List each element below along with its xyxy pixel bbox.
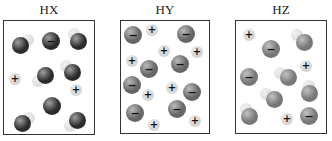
anion-ion: − xyxy=(262,40,280,58)
anion-atom-bonded xyxy=(296,34,313,51)
anion-ion: − xyxy=(171,55,189,73)
cation-ion: + xyxy=(126,55,138,67)
anion-ion: − xyxy=(168,100,186,118)
minus-sign-icon: − xyxy=(172,104,181,115)
anion-ion: − xyxy=(183,83,201,101)
cation-ion: + xyxy=(191,46,203,58)
cation-ion: + xyxy=(146,24,158,36)
anion-atom-bonded xyxy=(14,115,31,132)
anion-ion: − xyxy=(177,25,195,43)
plus-sign-icon: + xyxy=(72,85,80,95)
panel-label-hz: HZ xyxy=(235,2,327,18)
anion-atom-bonded xyxy=(12,37,29,54)
minus-sign-icon: − xyxy=(244,72,253,83)
plus-sign-icon: + xyxy=(168,83,176,93)
minus-sign-icon: − xyxy=(175,59,184,70)
anion-ion xyxy=(43,97,61,115)
anion-ion: − xyxy=(140,60,158,78)
plus-sign-icon: + xyxy=(283,114,291,124)
plus-sign-icon: + xyxy=(160,46,168,56)
anion-atom-bonded xyxy=(69,112,86,129)
anion-atom-bonded xyxy=(37,67,54,84)
cation-ion: + xyxy=(148,119,160,131)
minus-sign-icon: − xyxy=(130,108,139,119)
plus-sign-icon: + xyxy=(144,90,152,100)
plus-sign-icon: + xyxy=(128,56,136,66)
minus-sign-icon: − xyxy=(144,64,153,75)
plus-sign-icon: + xyxy=(11,74,19,84)
anion-ion: − xyxy=(240,68,258,86)
cation-ion: + xyxy=(300,60,312,72)
minus-sign-icon: − xyxy=(46,36,55,47)
cation-ion: + xyxy=(9,73,21,85)
anion-ion: − xyxy=(42,32,60,50)
plus-sign-icon: + xyxy=(191,116,199,126)
minus-sign-icon: − xyxy=(128,30,137,41)
anion-atom-bonded xyxy=(301,85,318,102)
minus-sign-icon: − xyxy=(181,29,190,40)
panel-label-hx: HX xyxy=(3,2,95,18)
cation-ion: + xyxy=(189,115,201,127)
minus-sign-icon: − xyxy=(187,87,196,98)
plus-sign-icon: + xyxy=(302,61,310,71)
minus-sign-icon: − xyxy=(304,111,313,122)
plus-sign-icon: + xyxy=(148,25,156,35)
anion-atom-bonded xyxy=(241,108,258,125)
anion-ion: − xyxy=(124,26,142,44)
anion-atom-bonded xyxy=(64,64,81,81)
cation-ion: + xyxy=(243,29,255,41)
plus-sign-icon: + xyxy=(150,120,158,130)
cation-ion: + xyxy=(70,84,82,96)
anion-atom-bonded xyxy=(70,33,87,50)
minus-sign-icon: − xyxy=(127,80,136,91)
anion-atom-bonded xyxy=(280,69,297,86)
minus-sign-icon: − xyxy=(266,44,275,55)
cation-ion: + xyxy=(142,89,154,101)
plus-sign-icon: + xyxy=(193,47,201,57)
cation-ion: + xyxy=(158,45,170,57)
panel-label-hy: HY xyxy=(120,2,210,18)
cation-ion: + xyxy=(166,82,178,94)
anion-atom-bonded xyxy=(266,91,283,108)
anion-ion: − xyxy=(126,104,144,122)
plus-sign-icon: + xyxy=(245,30,253,40)
anion-ion: − xyxy=(300,107,318,125)
cation-ion: + xyxy=(281,113,293,125)
anion-ion: − xyxy=(123,76,141,94)
